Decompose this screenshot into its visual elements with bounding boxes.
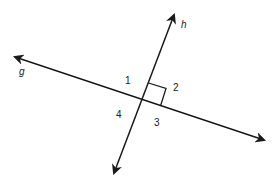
angle-1-label: 1 xyxy=(125,75,131,86)
angle-3-label: 3 xyxy=(154,117,160,128)
diagram-canvas: h g 1 2 3 4 xyxy=(0,0,277,187)
intersecting-lines-diagram: h g 1 2 3 4 xyxy=(0,0,277,187)
angle-4-label: 4 xyxy=(116,109,122,120)
line-g-label: g xyxy=(19,66,25,77)
line-g xyxy=(15,57,264,140)
line-h-label: h xyxy=(181,19,187,30)
line-h xyxy=(114,15,174,173)
angle-2-label: 2 xyxy=(173,82,179,93)
